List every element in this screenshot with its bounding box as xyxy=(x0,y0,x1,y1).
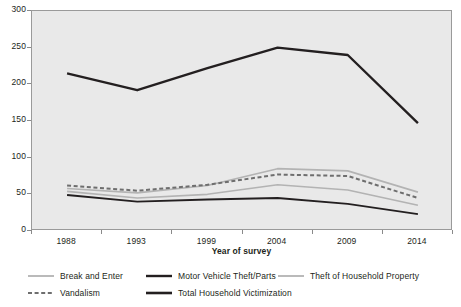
legend-line-swatch xyxy=(278,273,304,279)
legend-item: Break and Enter xyxy=(28,268,123,283)
y-tick-label: 300 xyxy=(12,5,26,14)
legend-line-swatch xyxy=(146,290,172,296)
x-tick-mark xyxy=(242,230,243,234)
legend-item: Vandalism xyxy=(28,285,100,300)
y-tick-label: 100 xyxy=(12,152,26,161)
x-tick-mark xyxy=(452,230,453,234)
x-tick-label: 2004 xyxy=(267,236,286,246)
series-line xyxy=(67,195,418,214)
legend-line-swatch xyxy=(146,273,172,279)
chart-figure: 300250200150100500 198819931999200420092… xyxy=(0,0,461,307)
x-tick-label: 1993 xyxy=(127,236,146,246)
legend-item: Total Household Victimization xyxy=(146,285,292,300)
series-line xyxy=(67,185,418,206)
y-axis: 300250200150100500 xyxy=(0,0,31,240)
y-tick-label: 150 xyxy=(12,115,26,124)
x-tick-label: 2009 xyxy=(337,236,356,246)
legend-line-swatch xyxy=(28,273,54,279)
legend-row-2: VandalismTotal Household Victimization xyxy=(28,285,453,300)
x-tick-mark xyxy=(31,230,32,234)
x-tick-mark xyxy=(312,230,313,234)
legend-line-swatch xyxy=(28,290,54,296)
legend-label: Break and Enter xyxy=(60,271,123,281)
legend-label: Vandalism xyxy=(60,288,100,298)
chart-legend: Break and EnterMotor Vehicle Theft/Parts… xyxy=(28,268,453,304)
y-tick-label: 250 xyxy=(12,42,26,51)
x-axis-title: Year of survey xyxy=(31,246,452,256)
series-canvas xyxy=(32,11,453,231)
plot-area xyxy=(31,10,452,230)
legend-label: Theft of Household Property xyxy=(310,271,419,281)
x-tick-mark xyxy=(171,230,172,234)
x-tick-label: 1999 xyxy=(197,236,216,246)
y-tick-label: 0 xyxy=(21,225,26,234)
legend-item: Motor Vehicle Theft/Parts xyxy=(146,268,276,283)
x-tick-label: 2014 xyxy=(407,236,426,246)
y-tick-label: 200 xyxy=(12,78,26,87)
legend-item: Theft of Household Property xyxy=(278,268,419,283)
y-tick-label: 50 xyxy=(16,188,26,197)
x-tick-label: 1988 xyxy=(56,236,75,246)
series-line xyxy=(67,48,418,124)
legend-label: Motor Vehicle Theft/Parts xyxy=(178,271,276,281)
x-tick-mark xyxy=(101,230,102,234)
legend-row-1: Break and EnterMotor Vehicle Theft/Parts… xyxy=(28,268,453,283)
legend-label: Total Household Victimization xyxy=(178,288,292,298)
x-tick-mark xyxy=(382,230,383,234)
